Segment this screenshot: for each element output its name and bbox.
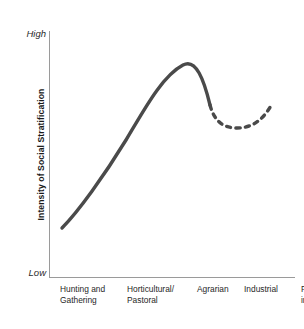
x-axis-tick-label: Agrarian bbox=[197, 284, 229, 295]
x-axis-tick-label: Horticultural/ Pastoral bbox=[127, 284, 174, 305]
curve-dashed-segment bbox=[210, 104, 272, 128]
x-axis-tick-label: Industrial bbox=[244, 284, 278, 295]
curve-solid-segment bbox=[62, 64, 210, 228]
x-axis-tick-labels: Hunting and GatheringHorticultural/ Past… bbox=[49, 284, 299, 324]
chart-figure: High Low Intensity of Social Stratificat… bbox=[0, 0, 304, 329]
x-axis-tick-label: Post- industrial bbox=[301, 284, 304, 305]
curve-plot bbox=[0, 0, 304, 329]
x-axis-tick-label: Hunting and Gathering bbox=[60, 284, 105, 305]
